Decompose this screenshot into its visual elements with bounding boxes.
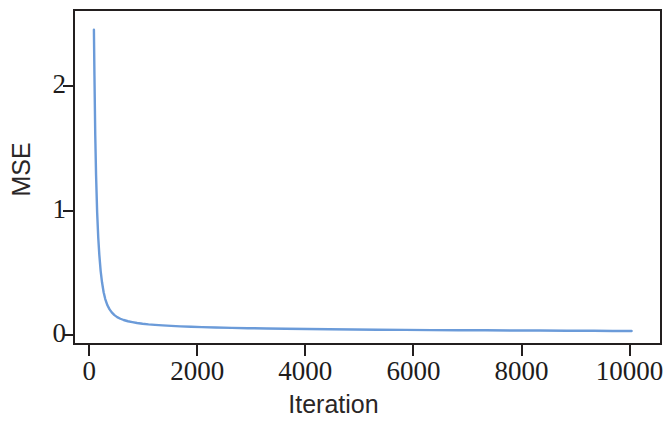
x-tick-mark [304, 345, 306, 356]
x-tick-label: 2000 [137, 358, 257, 385]
x-tick-label: 6000 [353, 358, 473, 385]
y-axis-title: MSE [9, 85, 34, 255]
mse-convergence-chart: 012 0200040006000800010000 MSE Iteration [0, 0, 667, 426]
plot-area [73, 9, 662, 345]
plot-svg [75, 11, 664, 347]
x-tick-mark [88, 345, 90, 356]
x-tick-mark [521, 345, 523, 356]
mse-line-series [94, 30, 632, 331]
x-tick-label: 10000 [570, 358, 667, 385]
x-tick-mark [629, 345, 631, 356]
x-tick-mark [196, 345, 198, 356]
x-tick-label: 0 [29, 358, 149, 385]
y-axis-title-wrapper: MSE [0, 0, 40, 426]
x-axis-title: Iteration [0, 392, 667, 417]
x-tick-mark [412, 345, 414, 356]
x-tick-label: 4000 [245, 358, 365, 385]
x-tick-label: 8000 [462, 358, 582, 385]
